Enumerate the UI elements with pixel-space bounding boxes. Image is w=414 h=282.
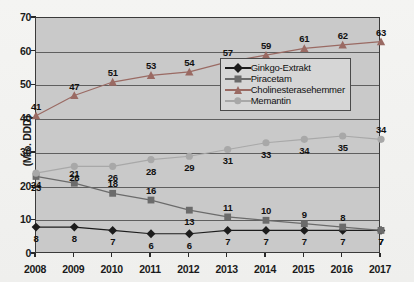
circle-marker-icon <box>301 136 308 143</box>
data-point-label: 31 <box>223 155 233 166</box>
x-tick-label: 2010 <box>101 263 123 275</box>
legend-item-memantin[interactable]: Memantin <box>225 95 345 106</box>
data-point-label: 13 <box>184 216 194 227</box>
legend: Ginkgo-Extrakt Piracetam Cholinesteraseh… <box>220 58 351 111</box>
x-tick-label: 2014 <box>254 263 276 275</box>
y-tick-label: 70 <box>5 11 31 23</box>
data-point-label: 8 <box>340 212 345 223</box>
data-point-label: 7 <box>225 236 230 247</box>
circle-marker-icon <box>186 153 193 160</box>
diamond-marker-icon <box>185 229 194 238</box>
data-point-label: 7 <box>302 236 307 247</box>
square-marker-icon <box>225 73 251 84</box>
data-point-label: 9 <box>302 208 307 219</box>
circle-marker-icon <box>225 95 251 106</box>
data-point-label: 33 <box>261 148 271 159</box>
y-tick-label: 0 <box>5 247 31 259</box>
diamond-marker-icon <box>300 226 309 235</box>
data-point-label: 6 <box>187 239 192 250</box>
square-marker-icon <box>224 214 231 221</box>
data-point-label: 26 <box>108 172 118 183</box>
legend-label: Ginkgo-Extrakt <box>251 62 311 73</box>
diamond-marker-icon <box>225 62 251 73</box>
circle-marker-icon <box>147 156 154 163</box>
series-line <box>36 176 381 230</box>
data-point-label: 29 <box>184 162 194 173</box>
data-point-label: 47 <box>69 80 79 91</box>
chart-screenshot: (Mio. DDD) 010203040506070 2008200920102… <box>0 0 414 282</box>
data-point-label: 61 <box>299 33 309 44</box>
data-point-label: 62 <box>338 29 348 40</box>
data-point-label: 24 <box>31 179 41 190</box>
data-point-label: 10 <box>261 205 271 216</box>
diamond-marker-icon <box>147 229 156 238</box>
x-tick-label: 2015 <box>292 263 314 275</box>
data-point-label: 57 <box>223 46 233 57</box>
data-point-label: 26 <box>69 172 79 183</box>
x-tick-label: 2017 <box>369 263 391 275</box>
x-tick-label: 2008 <box>24 263 46 275</box>
plot-area: 8876677777232118161311109874147515354575… <box>35 17 380 253</box>
legend-item-piracetam[interactable]: Piracetam <box>225 73 345 84</box>
legend-label: Memantin <box>251 95 291 106</box>
square-marker-icon <box>109 190 116 197</box>
triangle-marker-icon <box>225 84 251 95</box>
square-marker-icon <box>378 227 385 234</box>
square-marker-icon <box>301 220 308 227</box>
x-tick-label: 2013 <box>216 263 238 275</box>
y-tick-label: 50 <box>5 78 31 90</box>
legend-item-ginkgo-extrakt[interactable]: Ginkgo-Extrakt <box>225 62 345 73</box>
circle-marker-icon <box>377 136 384 143</box>
legend-label: Cholinesterasehemmer <box>251 84 345 95</box>
data-point-label: 54 <box>184 56 194 67</box>
data-point-label: 7 <box>340 236 345 247</box>
data-point-label: 8 <box>72 233 77 244</box>
x-tick-label: 2009 <box>62 263 84 275</box>
legend-label: Piracetam <box>251 73 292 84</box>
data-point-label: 41 <box>31 100 41 111</box>
data-point-label: 59 <box>261 40 271 51</box>
square-marker-icon <box>148 197 155 204</box>
data-point-label: 7 <box>264 236 269 247</box>
data-point-label: 8 <box>34 233 39 244</box>
square-marker-icon <box>263 217 270 224</box>
series-line <box>36 136 381 173</box>
data-point-label: 7 <box>110 236 115 247</box>
diamond-marker-icon <box>262 226 271 235</box>
x-tick-label: 2011 <box>139 263 161 275</box>
square-marker-icon <box>186 207 193 214</box>
diamond-marker-icon <box>223 226 232 235</box>
diamond-marker-icon <box>108 226 117 235</box>
y-tick-label: 10 <box>5 213 31 225</box>
triangle-marker-icon <box>70 91 78 99</box>
data-point-label: 63 <box>376 26 386 37</box>
circle-marker-icon <box>262 139 269 146</box>
y-tick-label: 30 <box>5 146 31 158</box>
circle-marker-icon <box>109 163 116 170</box>
series-lines <box>36 18 381 254</box>
data-point-label: 16 <box>146 185 156 196</box>
data-point-label: 6 <box>149 239 154 250</box>
data-point-label: 11 <box>223 201 232 212</box>
square-marker-icon <box>339 224 346 231</box>
x-tick-label: 2012 <box>177 263 199 275</box>
diamond-marker-icon <box>70 223 79 232</box>
data-point-label: 51 <box>108 67 118 78</box>
circle-marker-icon <box>339 132 346 139</box>
data-point-label: 28 <box>146 165 156 176</box>
data-point-label: 34 <box>376 124 386 135</box>
circle-marker-icon <box>224 146 231 153</box>
legend-item-cholinesterasehemmer[interactable]: Cholinesterasehemmer <box>225 84 345 95</box>
data-point-label: 53 <box>146 60 156 71</box>
y-tick-label: 20 <box>5 180 31 192</box>
series-line <box>36 227 381 234</box>
x-tick-label: 2016 <box>331 263 353 275</box>
y-tick-label: 60 <box>5 45 31 57</box>
circle-marker-icon <box>32 169 39 176</box>
data-point-label: 35 <box>338 142 348 153</box>
data-point-label: 34 <box>299 145 309 156</box>
data-point-label: 7 <box>379 236 384 247</box>
y-tick-label: 40 <box>5 112 31 124</box>
